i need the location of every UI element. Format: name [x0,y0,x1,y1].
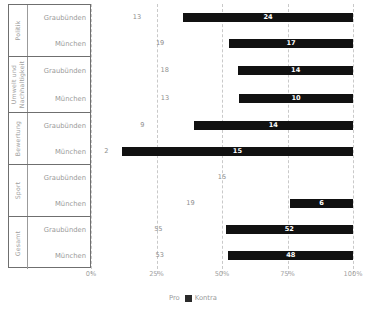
pro-value-label: 19 [145,39,175,48]
x-tick-label: 50% [215,270,230,278]
pro-value-label: 13 [122,13,152,22]
group-title-bewertung: Bewertung [9,113,28,164]
category-group: BewertungGraubündenMünchen [9,113,90,165]
kontra-value-label: 17 [229,39,353,48]
pro-value-label: 2 [91,147,121,156]
row-label: Graubünden [28,165,90,191]
pro-value-label: 15 [207,173,237,182]
category-group: GesamtGraubündenMünchen [9,217,90,269]
kontra-value-label: 48 [228,251,353,260]
legend-item-pro: Pro [159,294,180,302]
category-group: Umwelt und NachhaltigkeitGraubündenMünch… [9,57,90,113]
group-title-label: Sport [15,182,22,200]
row-label: München [28,139,90,165]
group-title-label: Gesamt [15,230,22,255]
kontra-value-label: 52 [226,225,353,234]
group-title-umwelt-und-nachhaltigkeit: Umwelt und Nachhaltigkeit [9,57,28,112]
group-title-label: Bewertung [15,121,22,156]
group-rows: GraubündenMünchen [28,5,90,56]
category-group: SportGraubündenMünchen [9,165,90,217]
kontra-value-label: 14 [194,121,353,130]
plot-area: 13241917181413109142151519655525348 [91,4,353,268]
group-rows: GraubündenMünchen [28,217,90,269]
group-title-label: Politik [15,21,22,41]
group-title-politik: Politik [9,5,28,56]
pro-value-label: 13 [150,94,180,103]
pro-value-label: 55 [143,225,173,234]
row-label: München [28,85,90,113]
row-label: München [28,191,90,217]
category-group: PolitikGraubündenMünchen [9,5,90,57]
x-tick-label: 100% [344,270,363,278]
pro-value-label: 53 [145,251,175,260]
legend-swatch-pro-icon [159,295,166,302]
row-label: Graubünden [28,57,90,85]
group-rows: GraubündenMünchen [28,113,90,164]
gridline-50 [222,4,223,274]
x-tick-label: 25% [149,270,164,278]
x-tick-label: 0% [86,270,96,278]
pro-value-label: 19 [176,199,206,208]
kontra-value-label: 24 [183,13,353,22]
row-label: München [28,243,90,269]
kontra-value-label: 10 [239,94,353,103]
gridline-0 [91,4,92,274]
row-label: Graubünden [28,5,90,31]
legend-item-kontra: Kontra [185,294,217,302]
gridline-100 [353,4,354,274]
kontra-value-label: 14 [238,66,353,75]
group-title-gesamt: Gesamt [9,217,28,269]
chart-legend: Pro Kontra [0,294,376,302]
pro-value-label: 9 [127,121,157,130]
x-tick-label: 75% [280,270,295,278]
row-label: München [28,31,90,57]
group-title-label: Umwelt und Nachhaltigkeit [11,61,26,108]
row-label: Graubünden [28,113,90,139]
group-title-sport: Sport [9,165,28,216]
kontra-value-label: 6 [290,199,353,208]
stacked-bar-chart: PolitikGraubündenMünchenUmwelt und Nachh… [0,0,376,315]
legend-label-pro: Pro [169,294,180,302]
legend-swatch-kontra-icon [185,295,192,302]
pro-value-label: 18 [150,66,180,75]
row-label: Graubünden [28,217,90,243]
group-rows: GraubündenMünchen [28,165,90,216]
kontra-value-label: 15 [122,147,353,156]
category-label-block: PolitikGraubündenMünchenUmwelt und Nachh… [8,4,91,268]
group-rows: GraubündenMünchen [28,57,90,112]
x-axis: 0%25%50%75%100% [91,270,353,282]
legend-label-kontra: Kontra [195,294,217,302]
